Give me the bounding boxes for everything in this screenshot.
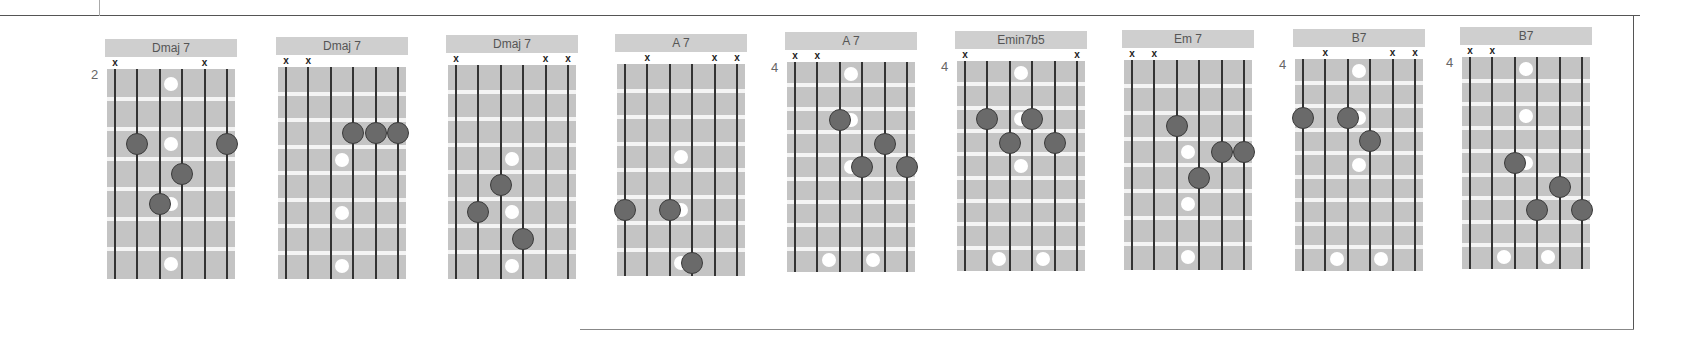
guitar-string (1198, 60, 1200, 270)
guitar-string (884, 62, 886, 272)
fret-line (617, 221, 745, 225)
chord-diagram: A 7xx4 (785, 32, 925, 282)
fret-line (617, 195, 745, 199)
fret-marker-dot (505, 152, 519, 166)
finger-position-dot (1549, 176, 1571, 198)
fret-line (787, 177, 915, 181)
guitar-string (1581, 57, 1583, 269)
guitar-string (455, 65, 457, 279)
finger-position-dot (896, 156, 918, 178)
fretboard: xx (1124, 60, 1252, 270)
finger-position-dot (659, 199, 681, 221)
fret-line (448, 224, 576, 228)
fret-marker-dot (1374, 252, 1388, 266)
guitar-string (204, 69, 206, 279)
frame-top-border (0, 15, 1640, 16)
fret-line (278, 145, 406, 149)
finger-position-dot (1211, 141, 1233, 163)
fret-number-label: 4 (1279, 57, 1286, 72)
fret-line (278, 118, 406, 122)
finger-position-dot (171, 163, 193, 185)
guitar-string (816, 62, 818, 272)
finger-position-dot (1233, 141, 1255, 163)
muted-string-icon: x (1490, 45, 1496, 56)
chord-diagram: Dmaj 7xxx (446, 35, 586, 285)
fret-line (617, 142, 745, 146)
fretboard: xxx (448, 65, 576, 279)
guitar-string (1054, 61, 1056, 271)
guitar-string (1153, 60, 1155, 270)
fret-line (1124, 163, 1252, 167)
fret-number-label: 2 (91, 67, 98, 82)
fret-line (278, 224, 406, 228)
guitar-string (285, 67, 287, 279)
fret-line (1462, 79, 1590, 83)
fret-marker-dot (1014, 159, 1028, 173)
guitar-string (964, 61, 966, 271)
guitar-string (114, 69, 116, 279)
fret-line (1124, 242, 1252, 246)
chord-diagram: Dmaj 7xx2 (105, 39, 245, 289)
guitar-string (330, 67, 332, 279)
finger-position-dot (490, 174, 512, 196)
muted-string-icon: x (202, 57, 208, 68)
fret-marker-dot (1519, 109, 1533, 123)
chord-title: Dmaj 7 (276, 37, 408, 55)
chord-diagram: Dmaj 7xx (276, 37, 416, 287)
fret-line (1462, 220, 1590, 224)
muted-string-icon: x (112, 57, 118, 68)
fret-line (1295, 104, 1423, 108)
chord-diagram: Em 7xx (1122, 30, 1262, 280)
fret-marker-dot (674, 150, 688, 164)
fret-line (957, 222, 1085, 226)
guitar-string (839, 62, 841, 272)
finger-position-dot (342, 122, 364, 144)
fretboard: xx2 (107, 69, 235, 279)
fret-marker-dot (335, 206, 349, 220)
fret-line (278, 92, 406, 96)
muted-string-icon: x (1074, 49, 1080, 60)
muted-string-icon: x (1412, 47, 1418, 58)
guitar-string (1324, 59, 1326, 271)
muted-string-icon: x (712, 52, 718, 63)
chord-title: Em 7 (1122, 30, 1254, 48)
guitar-string (136, 69, 138, 279)
guitar-string (1469, 57, 1471, 269)
fret-line (617, 115, 745, 119)
fret-line (107, 187, 235, 191)
guitar-string (736, 64, 738, 276)
finger-position-dot (1571, 199, 1593, 221)
fret-marker-dot (335, 153, 349, 167)
muted-string-icon: x (283, 55, 289, 66)
guitar-string (159, 69, 161, 279)
fret-marker-dot (1541, 250, 1555, 264)
fret-line (1295, 81, 1423, 85)
muted-string-icon: x (1390, 47, 1396, 58)
fret-marker-dot (866, 253, 880, 267)
muted-string-icon: x (1323, 47, 1329, 58)
muted-string-icon: x (543, 53, 549, 64)
chord-title: Dmaj 7 (105, 39, 237, 57)
fret-line (787, 200, 915, 204)
fret-line (1295, 198, 1423, 202)
finger-position-dot (681, 252, 703, 274)
fret-line (1295, 222, 1423, 226)
fretboard: xx4 (787, 62, 915, 272)
finger-position-dot (1044, 132, 1066, 154)
chord-title: A 7 (785, 32, 917, 50)
fret-line (448, 90, 576, 94)
muted-string-icon: x (962, 49, 968, 60)
chord-title: Dmaj 7 (446, 35, 578, 53)
fret-marker-dot (1330, 252, 1344, 266)
finger-position-dot (1337, 107, 1359, 129)
guitar-string (1559, 57, 1561, 269)
fret-line (1124, 216, 1252, 220)
fret-marker-dot (1497, 250, 1511, 264)
fret-line (107, 157, 235, 161)
fret-marker-dot (1181, 145, 1195, 159)
fret-line (1462, 196, 1590, 200)
muted-string-icon: x (645, 52, 651, 63)
chord-title: Emin7b5 (955, 31, 1087, 49)
fret-line (107, 217, 235, 221)
guitar-string (500, 65, 502, 279)
